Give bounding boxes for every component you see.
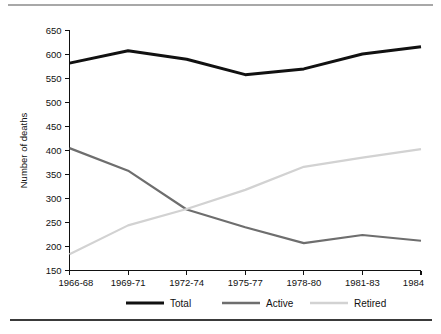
y-axis-title: Number of deaths bbox=[18, 112, 29, 188]
y-tick-label: 600 bbox=[46, 49, 62, 60]
y-tick-label: 200 bbox=[46, 241, 62, 252]
series-line-total bbox=[70, 47, 422, 75]
x-tick-label: 1981-83 bbox=[345, 277, 380, 288]
y-axis: 150200250300350400450500550600650 bbox=[46, 25, 70, 276]
legend-label-total: Total bbox=[170, 298, 191, 309]
y-tick-label: 550 bbox=[46, 73, 62, 84]
y-axis-title-text: Number of deaths bbox=[18, 112, 29, 188]
figure: 150200250300350400450500550600650 1966-6… bbox=[0, 0, 441, 334]
y-tick-label: 400 bbox=[46, 145, 62, 156]
y-tick-label: 350 bbox=[46, 169, 62, 180]
y-tick-label: 650 bbox=[46, 25, 62, 36]
x-tick-label: 1969-71 bbox=[111, 277, 146, 288]
legend-label-active: Active bbox=[266, 298, 294, 309]
y-tick-label: 250 bbox=[46, 217, 62, 228]
y-tick-label: 500 bbox=[46, 97, 62, 108]
x-tick-label: 1975-77 bbox=[228, 277, 263, 288]
y-tick-label: 300 bbox=[46, 193, 62, 204]
x-axis: 1966-681969-711972-741975-771978-801981-… bbox=[59, 271, 425, 288]
series-line-retired bbox=[70, 149, 422, 254]
y-tick-label: 450 bbox=[46, 121, 62, 132]
chart-legend: TotalActiveRetired bbox=[126, 298, 386, 309]
x-tick-label: 1966-68 bbox=[59, 277, 94, 288]
x-tick-label: 1978-80 bbox=[286, 277, 321, 288]
x-tick-label: 1972-74 bbox=[169, 277, 204, 288]
y-tick-label: 150 bbox=[46, 265, 62, 276]
line-chart: 150200250300350400450500550600650 1966-6… bbox=[0, 0, 441, 334]
x-tick-label: 1984 bbox=[403, 277, 424, 288]
legend-label-retired: Retired bbox=[354, 298, 386, 309]
series-lines bbox=[70, 47, 422, 254]
